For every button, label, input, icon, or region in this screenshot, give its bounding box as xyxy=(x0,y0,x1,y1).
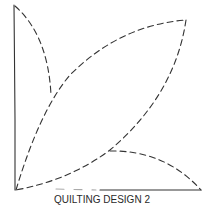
diagram-caption: QUILTING DESIGN 2 xyxy=(0,194,204,205)
quilting-design-diagram xyxy=(0,0,204,208)
bottom-edge-faint xyxy=(56,189,96,190)
small-leaf xyxy=(15,6,51,95)
bottom-leaf xyxy=(110,151,201,190)
large-leaf-upper xyxy=(16,20,186,190)
large-leaf-lower xyxy=(16,20,186,190)
vertical-edge xyxy=(14,5,15,190)
